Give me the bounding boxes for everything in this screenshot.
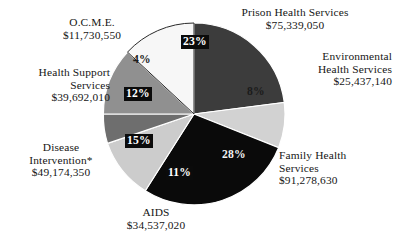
pct-label-disease: 15%	[125, 134, 153, 148]
label-family: Family Health Services $91,278,630	[279, 149, 394, 187]
pct-label-ocme: 4%	[133, 53, 151, 66]
label-family-name-1: Family Health	[279, 149, 346, 161]
label-environmental: Environmental Health Services $25,437,14…	[236, 50, 392, 88]
pct-label-aids: 11%	[166, 166, 193, 180]
label-environmental-amount: $25,437,140	[236, 75, 392, 88]
label-aids-amount: $34,537,020	[96, 219, 216, 232]
label-disease-name-2: Intervention*	[5, 154, 117, 167]
label-support-name-1: Health Support	[39, 66, 110, 78]
label-support-amount: $39,692,010	[0, 91, 110, 104]
label-support: Health Support Services $39,692,010	[0, 66, 110, 104]
label-prison-amount: $75,339,050	[205, 19, 385, 32]
pct-label-family: 28%	[222, 148, 246, 161]
label-support-name-2: Services	[0, 79, 110, 92]
label-family-amount: $91,278,630	[279, 174, 394, 187]
label-disease-name-1: Disease	[43, 141, 79, 153]
label-prison: Prison Health Services $75,339,050	[205, 6, 385, 31]
label-aids: AIDS $34,537,020	[96, 206, 216, 231]
label-ocme-name: O.C.M.E.	[69, 16, 115, 28]
pct-label-prison: 23%	[181, 35, 209, 49]
pct-label-support: 12%	[124, 87, 152, 101]
label-disease: Disease Intervention* $49,174,350	[5, 141, 117, 179]
label-ocme: O.C.M.E. $11,730,550	[26, 16, 158, 41]
pie-chart: 23% 8% 28% 11% 15% 12% 4% Prison Health …	[0, 0, 396, 244]
label-aids-name: AIDS	[142, 206, 169, 218]
label-ocme-amount: $11,730,550	[26, 29, 158, 42]
label-environmental-name-1: Environmental	[322, 50, 392, 62]
label-disease-amount: $49,174,350	[5, 166, 117, 179]
label-environmental-name-2: Health Services	[236, 63, 392, 76]
label-family-name-2: Services	[279, 162, 394, 175]
label-prison-name: Prison Health Services	[241, 6, 348, 18]
